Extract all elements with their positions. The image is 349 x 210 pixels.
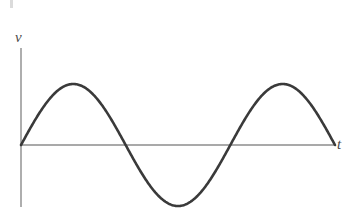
x-axis-label: t [337, 137, 341, 152]
axes-group [21, 48, 335, 207]
plot-canvas [0, 0, 349, 210]
sine-wave-figure: v t [0, 0, 349, 210]
y-axis-label: v [15, 30, 22, 45]
